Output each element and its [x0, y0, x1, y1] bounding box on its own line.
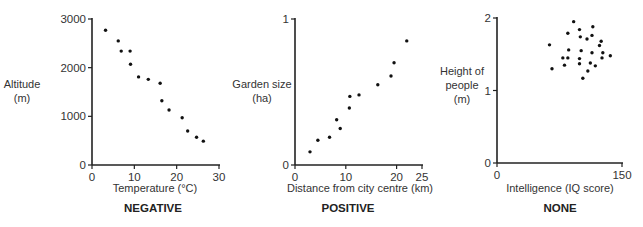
data-point — [147, 78, 150, 81]
y-tick-label: 2000 — [60, 62, 86, 74]
data-point — [579, 35, 582, 38]
data-point — [160, 99, 163, 102]
data-point — [579, 49, 582, 52]
data-point — [599, 40, 602, 43]
y-tick-label: 0 — [283, 159, 289, 171]
y-axis-label: Altitude(m) — [4, 78, 41, 104]
data-point — [117, 39, 120, 42]
data-point — [561, 56, 564, 59]
y-tick-label: 0 — [80, 159, 86, 171]
correlation-charts: 01000200030000102030Altitude(m)Temperatu… — [0, 0, 643, 227]
data-point — [348, 106, 351, 109]
data-point — [328, 136, 331, 139]
data-point — [581, 76, 584, 79]
data-point — [120, 49, 123, 52]
y-axis-label: Garden size(ha) — [232, 78, 291, 104]
data-point — [202, 139, 205, 142]
data-point — [589, 61, 592, 64]
x-axis-label: Temperature (°C) — [113, 182, 197, 194]
data-point — [566, 32, 569, 35]
x-tick-label: 0 — [89, 171, 95, 183]
data-point — [548, 43, 551, 46]
y-tick-label: 1000 — [60, 110, 86, 122]
data-point — [389, 74, 392, 77]
chart-title: NONE — [543, 202, 577, 214]
data-point — [578, 28, 581, 31]
scatter-panel-positive: 010102025Garden size(ha)Distance from ci… — [232, 13, 433, 214]
y-tick-label: 1 — [485, 85, 491, 97]
data-point — [167, 108, 170, 111]
data-point — [158, 82, 161, 85]
y-tick-label: 2 — [485, 12, 491, 24]
data-point — [316, 138, 319, 141]
y-tick-label: 3000 — [60, 13, 86, 25]
data-point — [348, 95, 351, 98]
data-point — [137, 75, 140, 78]
y-tick-label: 1 — [283, 13, 289, 25]
data-point — [586, 69, 589, 72]
data-point — [392, 61, 395, 64]
data-point — [129, 63, 132, 66]
x-axis-label: Intelligence (IQ score) — [506, 182, 614, 194]
data-point — [594, 64, 597, 67]
data-point — [195, 136, 198, 139]
data-point — [601, 51, 604, 54]
y-tick-label: 0 — [485, 157, 491, 169]
x-axis-label: Distance from city centre (km) — [287, 182, 433, 194]
data-point — [567, 48, 570, 51]
data-point — [572, 20, 575, 23]
data-point — [591, 25, 594, 28]
data-point — [590, 51, 593, 54]
data-point — [585, 37, 588, 40]
data-point — [357, 93, 360, 96]
data-point — [339, 127, 342, 130]
chart-title: NEGATIVE — [124, 202, 182, 214]
data-point — [186, 129, 189, 132]
x-tick-label: 0 — [494, 169, 500, 181]
data-point — [578, 57, 581, 60]
data-point — [335, 118, 338, 121]
data-point — [609, 54, 612, 57]
data-point — [104, 28, 107, 31]
data-point — [308, 150, 311, 153]
x-tick-label: 30 — [213, 171, 226, 183]
data-point — [566, 56, 569, 59]
scatter-panel-none: 0120150Height ofpeople(m)Intelligence (I… — [440, 12, 632, 214]
data-point — [598, 44, 601, 47]
data-point — [550, 67, 553, 70]
data-point — [405, 39, 408, 42]
chart-title: POSITIVE — [321, 202, 374, 214]
scatter-panel-negative: 01000200030000102030Altitude(m)Temperatu… — [4, 13, 226, 214]
x-tick-label: 150 — [612, 169, 631, 181]
data-point — [180, 116, 183, 119]
data-point — [600, 56, 603, 59]
data-point — [376, 83, 379, 86]
data-point — [563, 63, 566, 66]
data-point — [578, 62, 581, 65]
y-axis-label: Height ofpeople(m) — [440, 65, 485, 105]
data-point — [128, 49, 131, 52]
data-point — [590, 34, 593, 37]
